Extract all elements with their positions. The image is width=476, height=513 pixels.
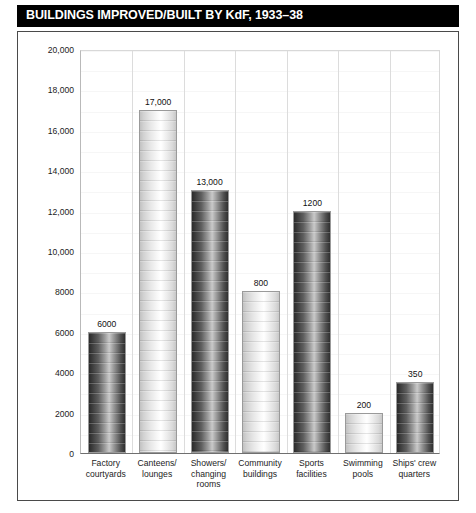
- bar-slot: 1200: [287, 51, 338, 453]
- bar[interactable]: [293, 211, 331, 453]
- bar[interactable]: [139, 110, 177, 453]
- chart-figure: BUILDINGS IMPROVED/BUILT BY KdF, 1933–38…: [17, 5, 459, 501]
- x-axis-tick-label: Communitybuildings: [234, 458, 285, 479]
- bar-texture: [89, 333, 125, 452]
- y-axis: 20,00018,00016,00014,00012,00010,0008000…: [18, 50, 74, 454]
- bar-slot: 6000: [81, 51, 132, 453]
- y-axis-tick-label: 16,000: [48, 126, 74, 136]
- bar-texture: [192, 191, 228, 452]
- x-axis-tick-label-line: courtyards: [80, 469, 131, 480]
- bar-value-label: 350: [408, 369, 422, 379]
- x-axis-tick-label-line: Ships' crew: [389, 458, 440, 469]
- y-axis-tick-label: 18,000: [48, 85, 74, 95]
- x-axis-tick-label: Factorycourtyards: [80, 458, 131, 479]
- bar[interactable]: [242, 291, 280, 453]
- bar[interactable]: [396, 382, 434, 453]
- x-axis-tick-label-line: facilities: [286, 469, 337, 480]
- x-axis-tick-label-line: Community: [234, 458, 285, 469]
- x-axis-tick-label-line: Showers/: [183, 458, 234, 469]
- y-axis-tick-label: 6000: [55, 328, 74, 338]
- bar-texture: [243, 292, 279, 452]
- bar-value-label: 800: [254, 278, 268, 288]
- bar-texture: [346, 414, 382, 452]
- bar-slot: 13,000: [184, 51, 235, 453]
- x-axis-tick-label-line: rooms: [183, 479, 234, 490]
- x-axis-tick-label: Canteens/lounges: [131, 458, 182, 479]
- bar-slot: 800: [235, 51, 286, 453]
- bar[interactable]: [88, 332, 126, 453]
- bar-slot: 17,000: [132, 51, 183, 453]
- bar[interactable]: [191, 190, 229, 453]
- y-axis-tick-label: 4000: [55, 368, 74, 378]
- y-axis-tick-label: 12,000: [48, 207, 74, 217]
- bar-value-label: 6000: [97, 319, 116, 329]
- bar-texture: [397, 383, 433, 452]
- bar-slot: 200: [338, 51, 389, 453]
- chart-title: BUILDINGS IMPROVED/BUILT BY KdF, 1933–38: [26, 8, 303, 22]
- x-axis-tick-label-line: Canteens/: [131, 458, 182, 469]
- x-axis-tick-label: Sportsfacilities: [286, 458, 337, 479]
- x-axis-tick-label-line: Factory: [80, 458, 131, 469]
- y-axis-tick-label: 14,000: [48, 166, 74, 176]
- chart-title-bar: BUILDINGS IMPROVED/BUILT BY KdF, 1933–38: [17, 5, 459, 27]
- x-axis-tick-label: Swimmingpools: [337, 458, 388, 479]
- x-axis: FactorycourtyardsCanteens/loungesShowers…: [80, 458, 440, 502]
- bar-value-label: 17,000: [145, 97, 171, 107]
- x-axis-tick-label: Ships' crewquarters: [389, 458, 440, 479]
- plot-area: 600017,00013,0008001200200350: [80, 50, 440, 454]
- bar[interactable]: [345, 413, 383, 453]
- bar-value-label: 13,000: [196, 177, 222, 187]
- y-axis-tick-label: 20,000: [48, 45, 74, 55]
- x-axis-tick-label-line: changing: [183, 469, 234, 480]
- bar-slot: 350: [390, 51, 441, 453]
- bar-texture: [294, 212, 330, 452]
- chart-frame: 20,00018,00016,00014,00012,00010,0008000…: [17, 31, 459, 501]
- bar-value-label: 1200: [303, 198, 322, 208]
- y-axis-tick-label: 8000: [55, 287, 74, 297]
- x-axis-tick-label-line: pools: [337, 469, 388, 480]
- bar-texture: [140, 111, 176, 452]
- x-axis-tick-label-line: buildings: [234, 469, 285, 480]
- y-axis-tick-label: 10,000: [48, 247, 74, 257]
- x-axis-tick-label: Showers/changingrooms: [183, 458, 234, 490]
- x-axis-tick-label-line: Swimming: [337, 458, 388, 469]
- y-axis-tick-label: 0: [69, 449, 74, 459]
- x-axis-tick-label-line: lounges: [131, 469, 182, 480]
- x-axis-tick-label-line: quarters: [389, 469, 440, 480]
- bar-value-label: 200: [357, 400, 371, 410]
- x-axis-tick-label-line: Sports: [286, 458, 337, 469]
- y-axis-tick-label: 2000: [55, 409, 74, 419]
